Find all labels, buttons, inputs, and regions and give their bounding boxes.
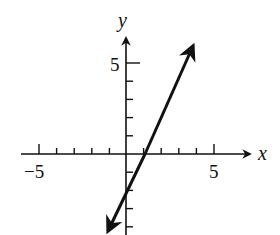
y-ticks [126, 63, 140, 227]
y-tick-label-5: 5 [110, 54, 120, 75]
x-tick-label-neg5: −5 [24, 161, 44, 182]
coordinate-plane: y x −5 5 5 [0, 0, 280, 235]
x-tick-label-5: 5 [209, 161, 219, 182]
x-axis-label: x [257, 142, 267, 164]
y-axis-label: y [116, 9, 127, 32]
plotted-line [145, 46, 193, 154]
